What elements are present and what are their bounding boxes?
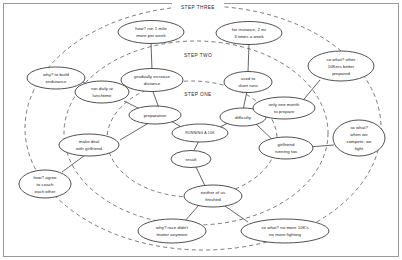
node-only-one-month-to-prepare-line-0: only one month <box>269 102 300 107</box>
node-so-what-no-more-10ks-no-more-fighting-line-1: no more fighting <box>269 232 301 237</box>
node-how-agree-to-coach-each-other[interactable]: how? agree to coach each other <box>19 170 71 198</box>
node-why-to-build-endurance-line-1: endurance <box>46 79 67 84</box>
node-why-race-didnt-matter-anymore-line-0: why? race didn't <box>156 225 189 230</box>
node-only-one-month-to-prepare[interactable]: only one month to prepare <box>253 97 315 119</box>
node-gradually-increase-distance-line-1: distance <box>144 81 161 86</box>
node-how-agree-to-coach-each-other-line-2: each other <box>35 189 56 194</box>
node-core-line-0: RUNNING A 10K <box>185 131 215 135</box>
node-core[interactable]: RUNNING A 10K <box>172 124 228 142</box>
node-so-what-other-10kers-better-prepared[interactable]: so what? other 10Kers better prepared <box>308 51 374 81</box>
node-why-to-build-endurance[interactable]: why? to build endurance <box>27 67 85 89</box>
node-only-one-month-to-prepare-line-1: to prepare <box>274 109 295 114</box>
node-so-what-no-more-10ks-no-more-fighting[interactable]: so what? no more 10K's no more fighting <box>241 219 329 243</box>
node-how-agree-to-coach-each-other-line-0: how? agree <box>33 175 57 180</box>
node-neither-of-us-finished[interactable]: neither of us finished <box>184 185 242 207</box>
node-for-instance-2-mi-3-times-a-week-line-1: 3 times a week <box>234 34 264 39</box>
node-so-what-other-10kers-better-prepared-line-2: prepared <box>332 71 350 76</box>
node-run-daily-at-lunchtime[interactable]: run daily at lunchtime <box>75 81 129 103</box>
node-used-to-short-runs[interactable]: used to short runs <box>224 72 272 93</box>
node-so-what-other-10kers-better-prepared-line-1: 10Kers better <box>328 64 355 69</box>
node-difficulty-line-0: difficulty <box>235 115 252 120</box>
ring-label-step-three: STEP THREE <box>172 2 224 12</box>
node-make-deal-with-girlfriend-line-0: make deal <box>79 139 99 144</box>
node-gradually-increase-distance-line-0: gradually increase <box>134 74 171 79</box>
node-make-deal-with-girlfriend-line-1: with girlfriend <box>76 146 103 151</box>
node-why-to-build-endurance-line-0: why? to build <box>43 72 69 77</box>
node-so-what-no-more-10ks-no-more-fighting-line-0: so what? no more 10K's <box>261 225 309 230</box>
ring-label-step-one: STEP ONE <box>176 89 220 99</box>
node-neither-of-us-finished-line-1: finished <box>205 197 221 202</box>
node-for-instance-2-mi-3-times-a-week[interactable]: for instance, 2 mi 3 times a week <box>216 22 282 45</box>
node-girlfriend-running-too-line-1: running too <box>275 149 298 154</box>
ring-label-step-two: STEP TWO <box>175 50 221 60</box>
node-how-run-1-mile-more-per-week-line-0: how? run 1 mile <box>135 26 167 31</box>
node-so-what-when-we-compete-we-fight-line-3: fight <box>355 146 364 151</box>
ring-label-step-three-text: STEP THREE <box>181 5 215 10</box>
node-girlfriend-running-too-line-0: girlfriend <box>277 142 295 147</box>
node-why-race-didnt-matter-anymore-line-1: matter anymore <box>156 232 188 237</box>
node-so-what-when-we-compete-we-fight[interactable]: so what? when we compete, we fight <box>333 120 385 156</box>
ring-label-step-two-text: STEP TWO <box>184 53 212 58</box>
node-how-run-1-mile-more-per-week-line-1: more per week <box>136 33 166 38</box>
node-neither-of-us-finished-line-0: neither of us <box>201 190 226 195</box>
node-why-race-didnt-matter-anymore[interactable]: why? race didn't matter anymore <box>138 219 206 243</box>
node-gradually-increase-distance[interactable]: gradually increase distance <box>121 69 183 92</box>
node-run-daily-at-lunchtime-line-0: run daily at <box>91 86 113 91</box>
node-for-instance-2-mi-3-times-a-week-line-0: for instance, 2 mi <box>232 27 266 32</box>
node-girlfriend-running-too[interactable]: girlfriend running too <box>259 137 313 159</box>
node-so-what-other-10kers-better-prepared-line-0: so what? other <box>326 57 356 62</box>
node-result-line-0: result <box>186 157 198 162</box>
ring-label-step-one-text: STEP ONE <box>184 92 211 97</box>
node-so-what-when-we-compete-we-fight-line-0: so what? <box>350 125 368 130</box>
node-so-what-when-we-compete-we-fight-line-1: when we <box>350 132 368 137</box>
node-result[interactable]: result <box>171 151 211 168</box>
node-how-run-1-mile-more-per-week[interactable]: how? run 1 mile more per week <box>118 21 184 44</box>
node-preparation-line-0: preparation <box>144 113 167 118</box>
node-run-daily-at-lunchtime-line-1: lunchtime <box>93 93 113 98</box>
node-how-agree-to-coach-each-other-line-1: to coach <box>37 182 54 187</box>
node-so-what-when-we-compete-we-fight-line-2: compete, we <box>346 139 372 144</box>
node-preparation[interactable]: preparation <box>129 106 181 124</box>
node-make-deal-with-girlfriend[interactable]: make deal with girlfriend <box>59 134 119 156</box>
node-used-to-short-runs-line-1: short runs <box>238 83 259 88</box>
node-used-to-short-runs-line-0: used to <box>241 76 256 81</box>
diagram-canvas: STEP THREE STEP TWO STEP ONE RUNNING A 1… <box>0 0 402 260</box>
